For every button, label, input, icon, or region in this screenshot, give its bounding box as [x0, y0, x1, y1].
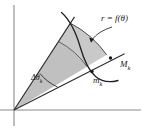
label-Mk-subscript: k	[128, 64, 131, 71]
label-Mk-base: M	[120, 59, 128, 69]
curve-leader-group	[89, 27, 112, 43]
point-mk-marker	[90, 70, 93, 73]
label-curve-equation: r = f(θ)	[101, 14, 128, 23]
curve-leader-line	[92, 27, 112, 40]
label-dtheta-base: Δθ	[31, 73, 40, 82]
label-delta-theta-k: Δθk	[31, 74, 42, 84]
label-mk-subscript: k	[100, 80, 103, 87]
label-outer-radius-Mk: Mk	[120, 60, 130, 71]
sector-region-group	[14, 17, 125, 110]
label-dtheta-subscript: k	[40, 78, 43, 84]
label-inner-radius-mk: mk	[93, 76, 102, 87]
point-Mk-marker	[109, 56, 112, 59]
polar-sector-figure: r = f(θ) Mk mk Δθk	[0, 0, 150, 129]
